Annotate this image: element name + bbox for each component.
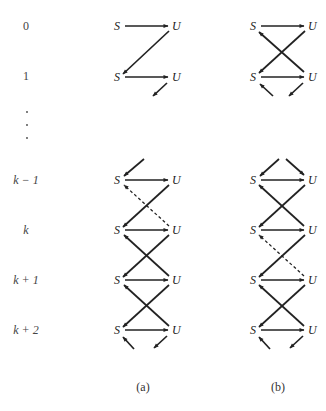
node-u: U [172,173,182,187]
arrow-incoming-to-s [124,159,144,176]
node-u: U [172,19,182,33]
panel-a-nodes: S U S U S U S U S U S U [114,19,182,337]
arrow-u-to-s-next [123,31,169,74]
panel-b-caption: (b) [271,380,285,394]
arrow-incoming-to-s [260,84,273,96]
row-label-1: 1 [23,69,29,83]
ellipsis-dot [26,137,28,139]
row-label-k-plus-2: k + 2 [13,323,38,337]
row-label-k-minus-1: k − 1 [13,173,38,187]
node-u: U [308,19,318,33]
node-s: S [114,173,120,187]
panel-b: S U S U S U S U S U S U [250,19,318,394]
panel-a-caption: (a) [136,380,149,394]
node-s: S [250,223,256,237]
arrow-u-to-s-next [123,185,169,227]
node-u: U [172,223,182,237]
node-s: S [250,323,256,337]
node-s: S [250,70,256,84]
arrow-incoming-to-s [123,337,134,349]
node-s: S [114,70,120,84]
node-u: U [308,273,318,287]
panel-b-nodes: S U S U S U S U S U S U [250,19,318,337]
arrow-u-to-s-next [154,336,167,348]
arrow-u-to-s-next [289,83,303,96]
arrow-incoming-to-s [260,159,279,176]
node-u: U [172,323,182,337]
ellipsis-dot [26,111,28,113]
node-s: S [250,273,256,287]
panel-a: S U S U S U S U S U S U [114,19,182,394]
node-s: S [114,223,120,237]
row-label-0: 0 [23,19,29,33]
node-s: S [250,19,256,33]
node-u: U [308,223,318,237]
node-u: U [308,173,318,187]
node-u: U [308,70,318,84]
ellipsis-dot [26,124,28,126]
node-u: U [172,70,182,84]
row-label-k-plus-1: k + 1 [13,273,38,287]
arrow-u-to-s-next [290,336,303,348]
arrow-u-to-prev [286,159,304,175]
stage-transition-diagram: 0 1 k − 1 k k + 1 k + 2 S U S U S U S U … [0,0,326,411]
row-label-k: k [23,223,29,237]
row-labels: 0 1 k − 1 k k + 1 k + 2 [13,19,38,337]
node-s: S [250,173,256,187]
node-s: S [114,323,120,337]
node-u: U [308,323,318,337]
node-u: U [172,273,182,287]
node-s: S [114,273,120,287]
arrow-u-to-s-next [153,83,167,96]
node-s: S [114,19,120,33]
arrow-incoming-to-s [259,337,270,349]
